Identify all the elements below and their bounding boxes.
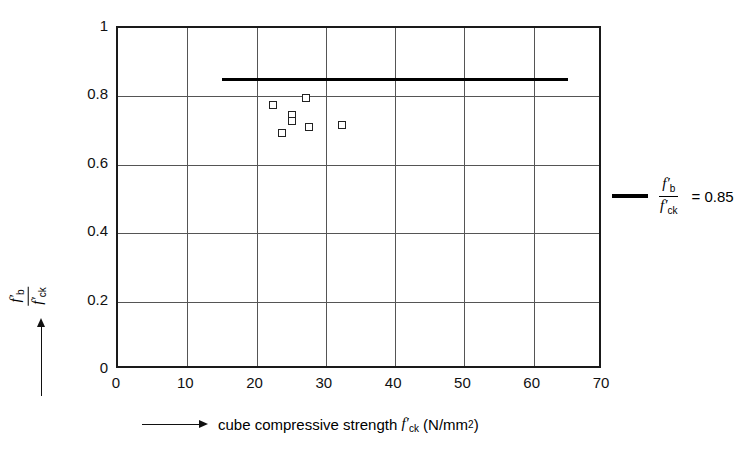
y-tick-label: 0.2 <box>64 291 108 309</box>
data-point-marker <box>269 101 277 109</box>
y-tick-label: 0.6 <box>64 154 108 172</box>
x-tick-label: 10 <box>165 374 205 392</box>
gridline-horizontal <box>118 96 599 97</box>
y-axis-title: f′b f′ck <box>10 270 70 400</box>
x-axis-title: cube compressive strength f′ck (N/mm2) <box>142 415 479 434</box>
x-axis-units-close: ) <box>474 416 479 433</box>
y-tick-label: 0.4 <box>64 222 108 240</box>
x-axis-symbol-sub: ck <box>409 423 419 434</box>
gridline-horizontal <box>118 233 599 234</box>
y-tick-label: 0.8 <box>64 85 108 103</box>
legend: f′b f′ck = 0.85 <box>612 176 734 216</box>
legend-fraction: f′b f′ck <box>657 176 680 216</box>
plot-area <box>116 26 601 368</box>
reference-line <box>222 78 568 81</box>
x-tick-label: 40 <box>373 374 413 392</box>
x-tick-label: 60 <box>512 374 552 392</box>
data-point-marker <box>338 121 346 129</box>
y-axis-numerator-sub: b <box>15 289 26 295</box>
legend-numerator-sub: b <box>670 183 676 194</box>
x-axis-units-open: (N/mm <box>423 416 468 433</box>
gridline-horizontal <box>118 302 599 303</box>
gridline-horizontal <box>118 165 599 166</box>
y-tick-label: 1 <box>64 17 108 35</box>
y-tick-label: 0 <box>64 359 108 377</box>
gridline-vertical <box>187 28 188 366</box>
arrow-right-icon <box>142 419 210 431</box>
y-axis-numerator-base: f <box>7 298 23 302</box>
legend-equation: = 0.85 <box>691 188 733 205</box>
x-tick-label: 50 <box>442 374 482 392</box>
data-point-marker <box>288 117 296 125</box>
arrow-up-icon <box>36 318 48 396</box>
data-point-marker <box>302 94 310 102</box>
legend-denominator-sub: ck <box>667 205 677 216</box>
legend-line-marker <box>612 194 648 198</box>
x-axis-symbol: f′ck <box>401 415 418 434</box>
y-axis-denominator-sub: ck <box>36 287 47 297</box>
data-point-marker <box>305 123 313 131</box>
y-axis-denominator-base: f <box>28 301 44 305</box>
y-axis-fraction: f′b f′ck <box>8 284 48 307</box>
x-tick-label: 20 <box>235 374 275 392</box>
chart-figure: 010203040506070 00.20.40.60.81 cube comp… <box>0 0 746 455</box>
x-axis-title-text: cube compressive strength <box>218 416 397 433</box>
x-tick-label: 30 <box>304 374 344 392</box>
data-point-marker <box>278 129 286 137</box>
x-tick-label: 70 <box>581 374 621 392</box>
